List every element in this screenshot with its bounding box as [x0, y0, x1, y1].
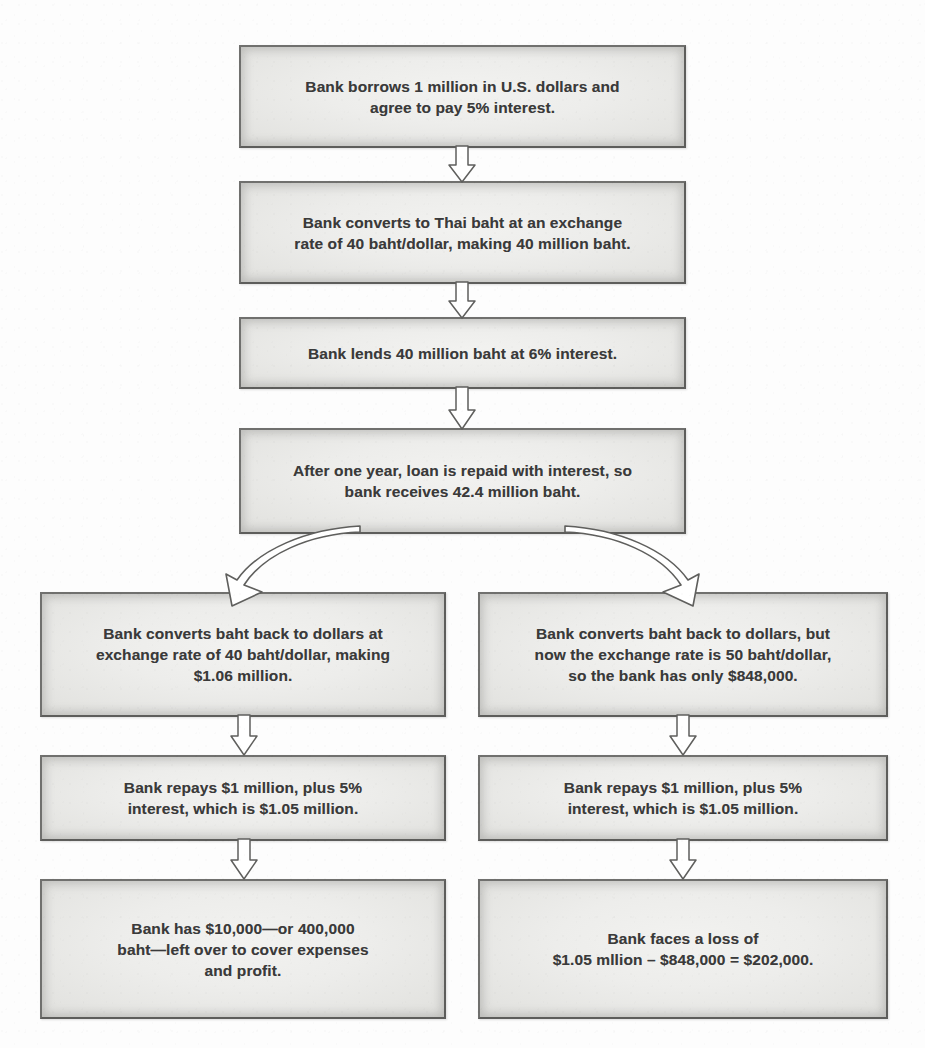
- node-right-outcome-loss: Bank faces a loss of $1.05 mllion – $848…: [478, 879, 888, 1019]
- node-left-convert-back: Bank converts baht back to dollars at ex…: [40, 592, 446, 717]
- arrow-right-repay-to-outcome: [662, 838, 704, 880]
- node-text: Bank borrows 1 million in U.S. dollars a…: [241, 76, 684, 118]
- node-left-outcome-profit: Bank has $10,000—or 400,000 baht—left ov…: [40, 879, 446, 1019]
- node-text: Bank converts to Thai baht at an exchang…: [241, 212, 684, 254]
- arrow-branch-left: [190, 528, 370, 608]
- node-text: Bank faces a loss of $1.05 mllion – $848…: [480, 928, 886, 970]
- node-lend-baht: Bank lends 40 million baht at 6% interes…: [239, 317, 686, 389]
- node-text: Bank converts baht back to dollars at ex…: [42, 623, 444, 686]
- node-text: Bank lends 40 million baht at 6% interes…: [241, 343, 684, 364]
- node-text: After one year, loan is repaid with inte…: [241, 460, 684, 502]
- node-text: Bank repays $1 million, plus 5% interest…: [42, 777, 444, 819]
- arrow-lend-to-repaid: [441, 386, 483, 430]
- arrow-right-convert-to-repay: [662, 714, 704, 756]
- node-right-convert-back: Bank converts baht back to dollars, but …: [478, 592, 888, 717]
- node-left-repay-loan: Bank repays $1 million, plus 5% interest…: [40, 755, 446, 841]
- arrow-left-convert-to-repay: [223, 714, 265, 756]
- flowchart-canvas: Bank borrows 1 million in U.S. dollars a…: [0, 0, 925, 1048]
- node-text: Bank has $10,000—or 400,000 baht—left ov…: [42, 918, 444, 981]
- node-loan-repaid: After one year, loan is repaid with inte…: [239, 428, 686, 534]
- arrow-branch-right: [555, 528, 755, 608]
- arrow-convert-to-lend: [441, 281, 483, 319]
- node-text: Bank repays $1 million, plus 5% interest…: [480, 777, 886, 819]
- node-right-repay-loan: Bank repays $1 million, plus 5% interest…: [478, 755, 888, 841]
- arrow-left-repay-to-outcome: [223, 838, 265, 880]
- node-convert-to-baht: Bank converts to Thai baht at an exchang…: [239, 181, 686, 284]
- node-borrow-dollars: Bank borrows 1 million in U.S. dollars a…: [239, 45, 686, 148]
- arrow-borrow-to-convert: [441, 145, 483, 183]
- node-text: Bank converts baht back to dollars, but …: [480, 623, 886, 686]
